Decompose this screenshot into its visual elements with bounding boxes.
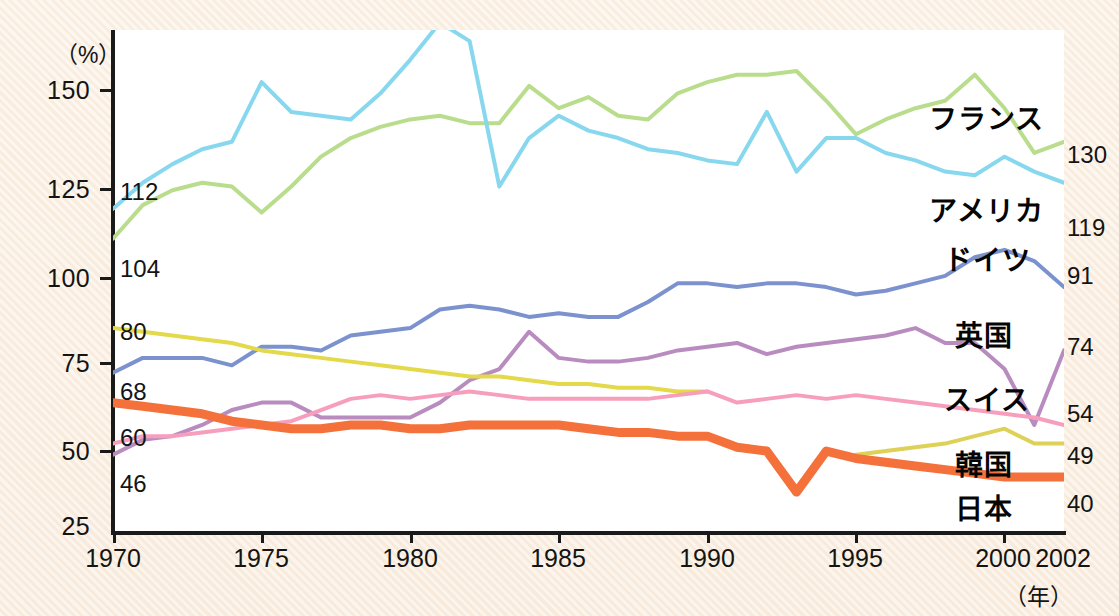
y-tick-50 xyxy=(100,450,113,453)
y-tick-label-125: 125 xyxy=(47,175,90,204)
start-value-germany: 68 xyxy=(120,378,147,406)
line-germany xyxy=(113,250,1064,373)
y-tick-100 xyxy=(100,277,113,280)
x-tick-label-1995: 1995 xyxy=(800,544,910,573)
end-value-america: 119 xyxy=(1067,214,1105,242)
start-value-america: 112 xyxy=(120,178,158,206)
y-tick-75 xyxy=(100,362,113,365)
end-value-switzerland: 54 xyxy=(1067,400,1094,428)
start-value-japan: 60 xyxy=(120,424,147,452)
series-label-america: アメリカ xyxy=(929,189,1044,229)
end-value-korea: 49 xyxy=(1067,442,1094,470)
line-america xyxy=(113,30,1064,209)
series-label-switzerland: スイス xyxy=(944,378,1030,418)
series-label-korea: 韓国 xyxy=(955,443,1013,483)
end-value-uk: 74 xyxy=(1067,333,1094,361)
end-value-germany: 91 xyxy=(1067,262,1094,290)
series-label-france: フランス xyxy=(929,97,1044,137)
series-label-germany: ドイツ xyxy=(944,238,1031,278)
chart-root: （%） （年） 150 125 100 75 50 25 1970 1975 1… xyxy=(0,0,1119,616)
x-tick-label-2002: 2002 xyxy=(1008,544,1118,573)
y-tick-label-50: 50 xyxy=(61,437,90,466)
y-tick-label-75: 75 xyxy=(61,349,90,378)
line-switzerland xyxy=(113,391,1064,443)
x-tick-label-1980: 1980 xyxy=(355,544,465,573)
y-tick-150 xyxy=(100,89,113,92)
y-tick-label-150: 150 xyxy=(47,76,90,105)
start-value-switzerland: 80 xyxy=(120,318,147,346)
source-note xyxy=(700,604,1110,616)
y-axis-unit-label: （%） xyxy=(55,36,121,70)
end-value-france: 130 xyxy=(1067,141,1107,169)
start-value-france: 104 xyxy=(120,255,160,283)
end-value-japan: 40 xyxy=(1067,490,1094,518)
x-tick-label-1975: 1975 xyxy=(206,544,316,573)
start-value-uk: 46 xyxy=(120,470,147,498)
series-label-uk: 英国 xyxy=(955,314,1013,354)
y-tick-label-100: 100 xyxy=(47,264,90,293)
y-tick-125 xyxy=(100,188,113,191)
x-tick-label-1970: 1970 xyxy=(58,544,168,573)
y-tick-label-25: 25 xyxy=(61,512,90,541)
series-label-japan: 日本 xyxy=(955,487,1013,527)
x-tick-label-1990: 1990 xyxy=(652,544,762,573)
x-tick-label-1985: 1985 xyxy=(503,544,613,573)
series-lines xyxy=(113,30,1064,533)
